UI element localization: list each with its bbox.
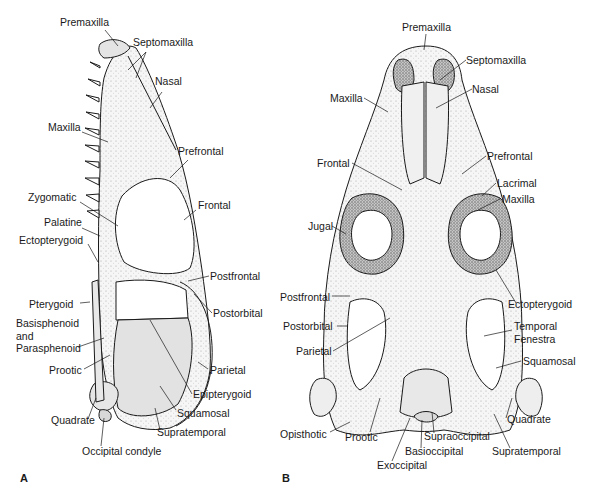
label-premaxilla-b: Premaxilla — [402, 21, 451, 33]
label-supratemporal-b: Supratemporal — [492, 445, 561, 457]
label-basisphenoid-a: Basisphenoid — [16, 317, 79, 329]
label-opisthotic-b: Opisthotic — [280, 428, 327, 440]
label-septomaxilla-a: Septomaxilla — [133, 36, 193, 48]
label-prootic-a: Prootic — [49, 364, 82, 376]
label-frontal-a: Frontal — [198, 199, 231, 211]
label-premaxilla-a: Premaxilla — [60, 16, 109, 28]
label-ectopterygoid-b: Ectopterygoid — [508, 298, 572, 310]
label-nasal-b: Nasal — [472, 83, 499, 95]
label-quadrate-b: Quadrate — [507, 413, 551, 425]
label-maxilla-b2: Maxilla — [502, 193, 535, 205]
label-occipital-condyle-a: Occipital condyle — [82, 445, 161, 457]
label-basioccipital-b: Basioccipital — [405, 445, 463, 457]
skull-dorsal-view — [310, 46, 543, 435]
label-maxilla-b: Maxilla — [330, 92, 363, 104]
label-prootic-b: Prootic — [345, 431, 378, 443]
label-palatine-a: Palatine — [44, 216, 82, 228]
label-jugal-b: Jugal — [308, 220, 333, 232]
panel-letter-b: B — [282, 472, 290, 484]
label-parietal-b: Parietal — [296, 345, 332, 357]
label-squamosal-b: Squamosal — [523, 355, 576, 367]
label-supraoccipital-b: Supraoccipital — [424, 430, 490, 442]
label-epipterygoid-a: Epipterygoid — [193, 388, 251, 400]
label-zygomatic-a: Zygomatic — [28, 191, 76, 203]
label-quadrate-a: Quadrate — [51, 414, 95, 426]
label-septomaxilla-b: Septomaxilla — [466, 54, 526, 66]
panel-letter-a: A — [20, 472, 28, 484]
label-squamosal-a: Squamosal — [177, 407, 230, 419]
label-postorbital-b: Postorbital — [283, 320, 333, 332]
label-temporal-b: Temporal — [514, 320, 557, 332]
label-and-a: and — [16, 330, 34, 342]
label-exoccipital-b: Exoccipital — [377, 459, 427, 471]
label-fenestra-b: Fenestra — [514, 333, 555, 345]
skull-lateral-view — [85, 40, 212, 430]
label-parasphenoid-a: Parasphenoid — [16, 342, 81, 354]
label-pterygoid-a: Pterygoid — [29, 298, 73, 310]
label-frontal-b: Frontal — [317, 157, 350, 169]
label-prefrontal-b: Prefrontal — [487, 150, 533, 162]
label-postfrontal-a: Postfrontal — [210, 270, 260, 282]
label-postfrontal-b: Postfrontal — [280, 291, 330, 303]
label-parietal-a: Parietal — [210, 364, 246, 376]
label-maxilla-a: Maxilla — [48, 121, 81, 133]
label-postorbital-a: Postorbital — [213, 307, 263, 319]
label-nasal-a: Nasal — [155, 75, 182, 87]
label-prefrontal-a: Prefrontal — [178, 145, 224, 157]
label-ectopterygoid-a: Ectopterygoid — [19, 234, 83, 246]
label-supratemporal-a: Supratemporal — [157, 426, 226, 438]
label-lacrimal-b: Lacrimal — [497, 177, 537, 189]
